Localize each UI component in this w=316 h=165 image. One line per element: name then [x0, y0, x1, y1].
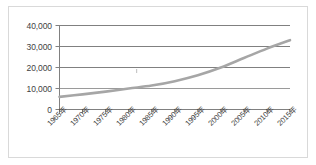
y-axis-label-40000: 40,000	[14, 21, 52, 31]
y-axis-label-20000: 20,000	[14, 63, 52, 73]
gridlines	[59, 26, 290, 89]
chart-container: 40,000 30,000 20,000 10,000 0 1965年 1970…	[0, 0, 316, 165]
plot-artifact-mark	[136, 69, 137, 73]
y-axis-label-30000: 30,000	[14, 42, 52, 52]
y-axis-label-10000: 10,000	[14, 84, 52, 94]
y-axis-label-0: 0	[14, 105, 52, 115]
